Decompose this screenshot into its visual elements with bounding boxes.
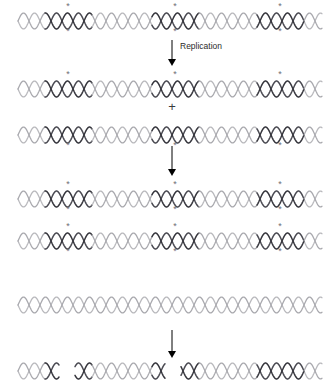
replication-label: Replication xyxy=(180,41,222,51)
dna-strand-row: ****** xyxy=(0,186,336,212)
asterisk-marker-icon: * xyxy=(66,223,70,229)
asterisk-marker-icon: * xyxy=(66,3,70,9)
asterisk-marker-icon: * xyxy=(66,248,70,254)
down-arrow-icon xyxy=(166,146,178,176)
dna-double-helix-icon xyxy=(0,186,336,212)
asterisk-marker-icon: * xyxy=(66,206,70,212)
dna-strand-row xyxy=(0,358,336,383)
dna-strand-row xyxy=(0,292,336,318)
asterisk-marker-icon: * xyxy=(278,206,282,212)
dna-double-helix-icon xyxy=(0,228,336,254)
dna-double-helix-icon xyxy=(0,122,336,148)
asterisk-marker-icon: * xyxy=(278,71,282,77)
asterisk-marker-icon: * xyxy=(278,223,282,229)
asterisk-marker-icon: * xyxy=(173,28,177,34)
asterisk-marker-icon: * xyxy=(278,3,282,9)
dna-strand-row: *** xyxy=(0,122,336,148)
asterisk-marker-icon: * xyxy=(173,71,177,77)
asterisk-marker-icon: * xyxy=(173,3,177,9)
asterisk-marker-icon: * xyxy=(66,181,70,187)
asterisk-marker-icon: * xyxy=(66,71,70,77)
dna-strand-row: ****** xyxy=(0,8,336,34)
asterisk-marker-icon: * xyxy=(173,206,177,212)
asterisk-marker-icon: * xyxy=(278,248,282,254)
dna-strand-row: ****** xyxy=(0,228,336,254)
asterisk-marker-icon: * xyxy=(278,181,282,187)
asterisk-marker-icon: * xyxy=(173,248,177,254)
asterisk-marker-icon: * xyxy=(278,142,282,148)
asterisk-marker-icon: * xyxy=(278,28,282,34)
diagram-canvas: ************************+Replication xyxy=(0,0,336,383)
dna-double-helix-icon xyxy=(0,8,336,34)
dna-double-helix-icon xyxy=(0,292,336,318)
asterisk-marker-icon: * xyxy=(66,142,70,148)
down-arrow-icon xyxy=(166,40,178,66)
asterisk-marker-icon: * xyxy=(173,223,177,229)
asterisk-marker-icon: * xyxy=(66,28,70,34)
down-arrow-icon xyxy=(166,330,178,358)
dna-double-helix-icon xyxy=(0,358,336,383)
plus-separator: + xyxy=(168,100,176,113)
asterisk-marker-icon: * xyxy=(173,181,177,187)
